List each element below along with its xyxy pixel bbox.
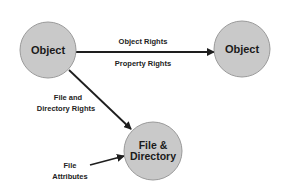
node-file-directory: File & Directory xyxy=(124,122,182,180)
directory-rights-label: Directory Rights xyxy=(37,104,95,113)
attributes-label: Attributes xyxy=(52,172,87,181)
edge-attributes-to-file-directory: File Attributes xyxy=(52,156,124,181)
node-object-left: Object xyxy=(20,22,76,78)
arrow-line xyxy=(90,156,124,165)
property-rights-label: Property Rights xyxy=(115,59,171,68)
rights-diagram: Object Rights Property Rights File and D… xyxy=(0,0,287,192)
node-label: Object xyxy=(31,44,66,56)
file-and-label: File and xyxy=(54,93,83,102)
edge-object-to-object: Object Rights Property Rights xyxy=(76,37,214,68)
file-label: File xyxy=(64,161,77,170)
node-label: Object xyxy=(225,43,260,55)
node-label-line2: Directory xyxy=(130,150,176,162)
edge-object-to-file-directory: File and Directory Rights xyxy=(37,70,131,129)
node-object-right: Object xyxy=(214,21,270,77)
object-rights-label: Object Rights xyxy=(119,37,168,46)
